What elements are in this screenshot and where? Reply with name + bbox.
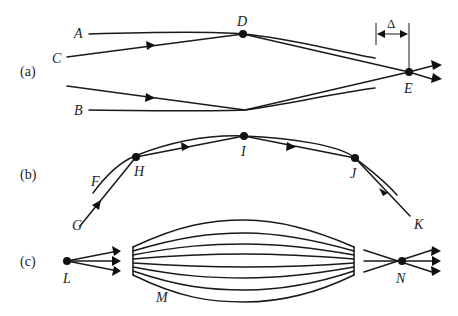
label-J: J	[350, 166, 357, 181]
label-F: F	[90, 174, 100, 189]
arrowhead-icon	[145, 93, 155, 102]
arrowhead-icon	[431, 73, 442, 83]
panel-a-label: (a)	[20, 64, 36, 80]
delta-label: Δ	[387, 16, 395, 31]
point-N	[398, 257, 406, 265]
arrowhead-icon	[431, 266, 441, 276]
arrowhead-icon	[112, 256, 121, 266]
panel-a: (a) Δ A C B D E	[20, 14, 442, 118]
label-C: C	[52, 51, 62, 66]
arrowhead-icon	[112, 246, 121, 256]
arrowhead-icon	[146, 41, 155, 50]
curve-B	[89, 88, 375, 111]
point-E	[405, 68, 413, 76]
arrowhead-icon	[112, 266, 121, 276]
point-H	[132, 153, 140, 161]
label-E: E	[403, 81, 413, 96]
arrowhead-icon	[432, 256, 441, 266]
point-J	[351, 154, 359, 162]
label-M: M	[155, 290, 169, 305]
panel-c-label: (c)	[20, 254, 36, 270]
arrowhead-icon	[377, 30, 385, 38]
arrowhead-icon	[431, 246, 441, 256]
ray-L-3	[67, 261, 113, 270]
panel-c: (c) L M N	[20, 220, 441, 305]
label-L: L	[62, 271, 71, 286]
ray-L-1	[67, 252, 113, 261]
ray-C-D	[67, 34, 243, 57]
label-N: N	[395, 271, 406, 286]
point-D	[239, 30, 247, 38]
label-G: G	[72, 218, 82, 233]
point-L	[63, 257, 71, 265]
point-I	[240, 132, 248, 140]
arrowhead-icon	[181, 142, 190, 151]
ray-lower-E	[67, 66, 432, 110]
panel-b-label: (b)	[20, 167, 37, 183]
label-D: D	[236, 14, 247, 29]
arrowhead-icon	[431, 60, 442, 70]
ray-D-E	[243, 34, 432, 79]
label-A: A	[73, 26, 83, 41]
ray-diagram-figure: (a) Δ A C B D E (b)	[0, 0, 458, 316]
arrowhead-icon	[400, 30, 408, 38]
label-B: B	[74, 103, 83, 118]
label-H: H	[133, 164, 145, 179]
label-K: K	[413, 217, 424, 232]
panel-b: (b) F G H I J K	[20, 132, 424, 233]
label-I: I	[240, 144, 247, 159]
arrowhead-icon	[286, 142, 296, 151]
